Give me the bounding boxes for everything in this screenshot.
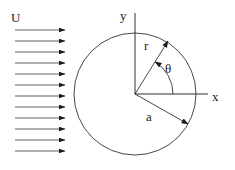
diagram-canvas	[0, 0, 235, 170]
flow-past-cylinder-figure: U y x r θ a	[0, 0, 235, 170]
radius-vector-label: r	[144, 39, 148, 52]
cylinder-radius-line	[135, 94, 188, 124]
freestream-arrow-group	[15, 30, 65, 151]
cylinder-radius-label: a	[146, 110, 152, 123]
radius-vector-line	[135, 41, 168, 94]
freestream-label: U	[11, 11, 20, 24]
angle-label: θ	[165, 62, 171, 75]
y-axis-label: y	[120, 9, 127, 22]
x-axis-label: x	[212, 90, 219, 103]
